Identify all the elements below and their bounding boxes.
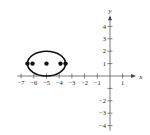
x-tick-label: −6	[30, 79, 38, 86]
chart: xy −7−6−5−4−3−2−114321−2−3−4	[0, 0, 150, 135]
y-axis-arrow-icon	[108, 15, 112, 20]
point-focus-right	[58, 61, 62, 65]
x-tick-label: −2	[81, 79, 88, 86]
axes: xy	[17, 7, 143, 130]
y-tick-label: −3	[99, 109, 106, 116]
x-axis-label: x	[138, 73, 143, 81]
x-tick-label: −4	[56, 79, 64, 86]
y-tick-label: −4	[99, 122, 107, 129]
y-tick-label: 3	[103, 35, 106, 42]
point-vertex-left	[25, 61, 29, 65]
y-tick-label: 1	[103, 60, 106, 67]
point-vertex-right	[63, 61, 67, 65]
x-tick-label: −3	[68, 79, 75, 86]
y-axis-label: y	[108, 7, 113, 15]
y-tick-label: 4	[103, 23, 107, 30]
y-tick-label: 2	[103, 47, 106, 54]
point-focus-left	[30, 61, 34, 65]
x-axis-arrow-icon	[131, 74, 136, 78]
y-tick-label: −2	[99, 97, 106, 104]
x-tick-label: −1	[94, 79, 101, 86]
x-tick-label: 1	[121, 79, 124, 86]
plot-area	[25, 51, 68, 76]
x-tick-label: −5	[43, 79, 50, 86]
x-tick-label: −7	[18, 79, 26, 86]
point-center	[44, 61, 48, 65]
